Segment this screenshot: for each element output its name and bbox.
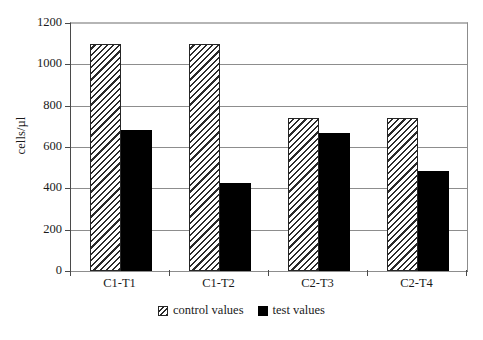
plot-area xyxy=(70,22,468,272)
bar-c2-t3-control xyxy=(288,118,319,271)
legend-entry-test: test values xyxy=(258,303,325,318)
bar-c1-t1-test xyxy=(121,130,152,271)
bar-c2-t4-test xyxy=(418,171,449,271)
legend-label: control values xyxy=(173,303,243,318)
bar-series-layer xyxy=(71,23,467,271)
bar-c1-t2-control xyxy=(189,44,220,271)
y-axis-tick-label: 400 xyxy=(6,181,62,194)
chart-legend: control valuestest values xyxy=(0,303,483,318)
y-axis-tick-labels: 020040060080010001200 xyxy=(0,0,70,340)
y-axis-tick-label: 1000 xyxy=(6,57,62,70)
x-axis-tick-label-c1-t1: C1-T1 xyxy=(65,276,175,291)
y-axis-tick-label: 600 xyxy=(6,140,62,153)
y-axis-tick-label: 1200 xyxy=(6,16,62,29)
y-axis-tick-label: 200 xyxy=(6,222,62,235)
bar-c1-t1-control xyxy=(90,44,121,271)
solid-black-swatch xyxy=(258,306,268,316)
bar-c2-t3-test xyxy=(319,133,350,271)
legend-entry-control: control values xyxy=(158,303,243,318)
x-axis-tick-label-c2-t3: C2-T3 xyxy=(263,276,373,291)
legend-label: test values xyxy=(273,303,325,318)
x-axis-tick-label-c1-t2: C1-T2 xyxy=(164,276,274,291)
bar-chart-figure: cells/µl 020040060080010001200 C1-T1C1-T… xyxy=(0,0,483,340)
y-axis-tick-label: 0 xyxy=(6,264,62,277)
x-axis-tick-labels: C1-T1C1-T2C2-T3C2-T4 xyxy=(70,276,466,298)
y-axis-tick-label: 800 xyxy=(6,98,62,111)
bar-c2-t4-control xyxy=(387,118,418,271)
bar-c1-t2-test xyxy=(220,183,251,271)
gridline xyxy=(71,271,467,272)
hatched-swatch xyxy=(158,306,168,316)
x-axis-tick-label-c2-t4: C2-T4 xyxy=(362,276,472,291)
